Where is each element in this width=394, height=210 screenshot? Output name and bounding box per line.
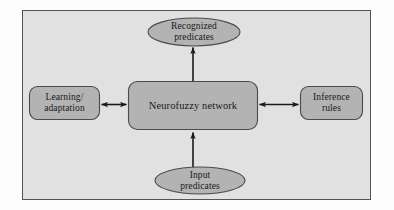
node-neurofuzzy-network[interactable] bbox=[129, 82, 258, 130]
node-recognized-predicates[interactable] bbox=[148, 18, 240, 46]
node-learning-adaptation[interactable] bbox=[30, 87, 100, 120]
node-input-predicates[interactable] bbox=[155, 167, 245, 194]
node-inference-rules[interactable] bbox=[301, 87, 363, 120]
diagram-canvas bbox=[0, 0, 394, 210]
figure-root: Neurofuzzy network Learning/ adaptation … bbox=[0, 0, 394, 210]
